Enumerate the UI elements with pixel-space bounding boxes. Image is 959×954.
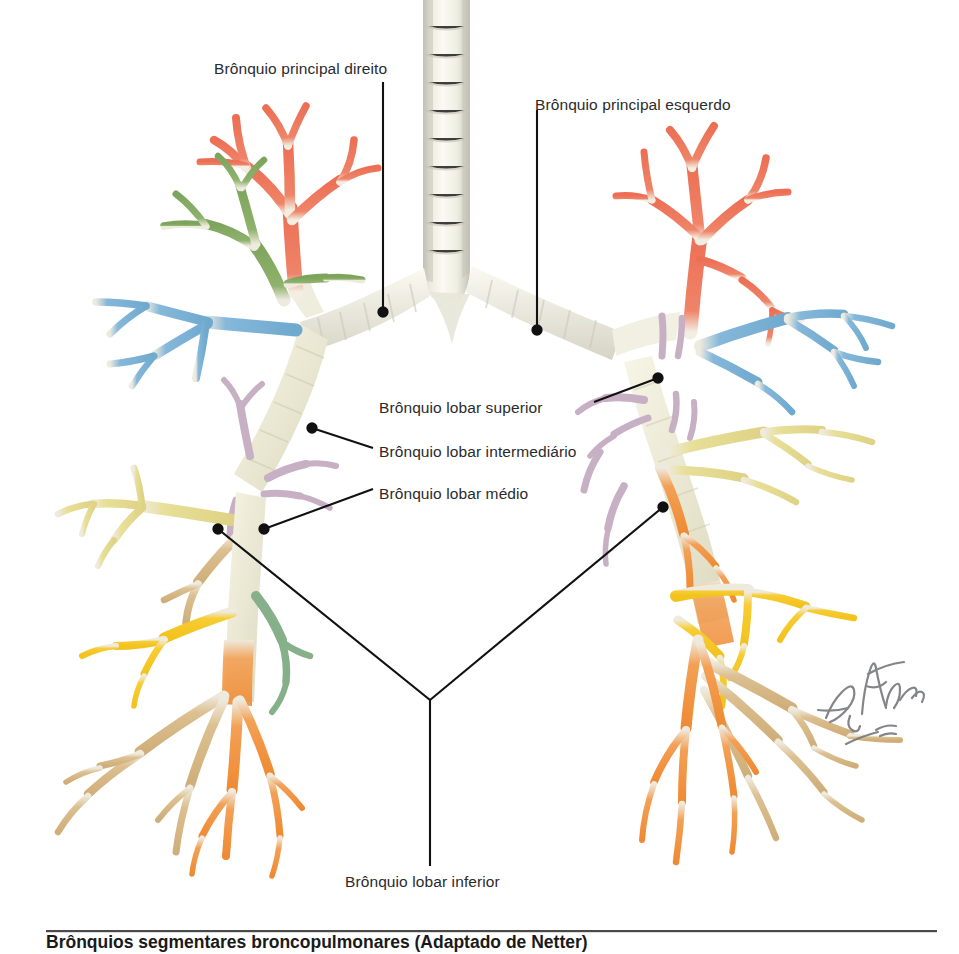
trachea: [423, 0, 470, 300]
label-lobar-superior: Brônquio lobar superior: [379, 399, 542, 416]
left-main-bronchus: [466, 266, 622, 360]
right-middle-lobe-segments: [58, 468, 238, 622]
label-lobar-inferior: Brônquio lobar inferior: [345, 873, 500, 890]
left-lower-lobe-segments: [642, 590, 900, 862]
figure-caption: Brônquios segmentares broncopulmonares (…: [46, 932, 937, 954]
leader-lobar-inferior-right: [430, 507, 663, 700]
right-lower-lobe-segments: [58, 596, 310, 876]
label-principal-direito: Brônquio principal direito: [214, 60, 387, 77]
figure-caption-text: Brônquios segmentares broncopulmonares (…: [46, 932, 588, 953]
carina: [430, 292, 470, 344]
label-lobar-medio: Brônquio lobar médio: [379, 485, 528, 502]
figure-canvas: Brônquio principal direito Brônquio prin…: [0, 0, 959, 954]
label-lobar-intermediario: Brônquio lobar intermediário: [379, 443, 577, 460]
bronchial-tree-illustration: [0, 0, 959, 954]
label-principal-esquerdo: Brônquio principal esquerdo: [535, 96, 731, 113]
right-intermediate-bronchus: [234, 324, 328, 492]
right-upper-lobe-segments: [96, 106, 378, 386]
leader-lobar-intermediario: [312, 428, 373, 448]
